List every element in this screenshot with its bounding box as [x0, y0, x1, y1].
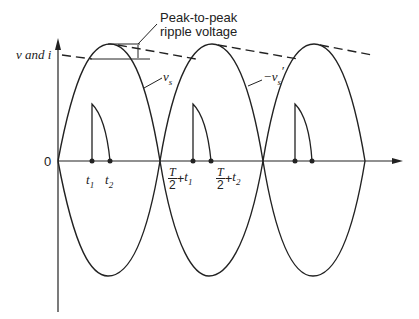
x-axis-arrow-icon: [392, 158, 403, 164]
t1-sub: 1: [90, 180, 95, 190]
ripple-measure: [92, 24, 157, 59]
vs-prime-leader: [248, 80, 262, 86]
annotation-line-2: ripple voltage: [160, 25, 237, 38]
y-axis-arrow-icon: [55, 38, 61, 50]
T-over-2-fraction: T2: [168, 166, 177, 191]
y-axis-label-text: v and i: [16, 47, 51, 62]
t-sub: 2: [236, 177, 241, 187]
vs-prime-label: −vs′: [263, 70, 284, 87]
T2-t2-label: T2+t2: [216, 166, 240, 191]
current-pulses: [92, 104, 312, 161]
waveform-diagram: [0, 0, 419, 319]
vs-label-sub: s: [169, 77, 173, 87]
annotation-line-1: Peak-to-peak: [160, 11, 237, 24]
vs-prime-label-sub: s: [278, 77, 282, 87]
y-axis-label: v and i: [16, 48, 51, 61]
origin-label: 0: [44, 155, 51, 168]
ripple-voltage-line: [62, 45, 372, 59]
ripple-annotation: Peak-to-peak ripple voltage: [160, 11, 237, 38]
t-sub: 1: [188, 177, 193, 187]
frac-den: 2: [168, 179, 177, 191]
t1-part: t1: [184, 169, 192, 184]
T-over-2-fraction: T2: [216, 166, 225, 191]
T2-t1-label: T2+t1: [168, 166, 192, 191]
vs-leader: [144, 78, 162, 88]
t1-label: t1: [86, 173, 94, 190]
frac-den: 2: [216, 179, 225, 191]
t2-sub: 2: [109, 180, 114, 190]
t2-label: t2: [105, 173, 113, 190]
vs-label: vs: [163, 70, 172, 87]
vs-prime-mark: ′: [281, 63, 284, 78]
vs-prime-label-var: −v: [263, 69, 278, 84]
t2-part: t2: [232, 169, 240, 184]
